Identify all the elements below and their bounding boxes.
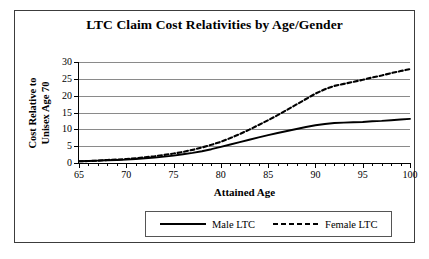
x-axis-tick-minor bbox=[136, 163, 137, 166]
chart-legend: Male LTC Female LTC bbox=[145, 211, 392, 237]
series-line-female-ltc bbox=[79, 69, 410, 161]
x-axis-tick-minor bbox=[164, 163, 165, 166]
x-axis-tick-minor bbox=[401, 163, 402, 166]
x-axis-tick-label: 70 bbox=[111, 169, 141, 180]
x-axis-tick-minor bbox=[297, 163, 298, 166]
x-axis-tick-minor bbox=[107, 163, 108, 166]
x-axis-tick-label: 80 bbox=[206, 169, 236, 180]
y-axis-tick-label: 5 bbox=[50, 140, 72, 151]
x-axis-tick-minor bbox=[145, 163, 146, 166]
y-axis-tick-label: 30 bbox=[50, 56, 72, 67]
y-axis-tick-label: 10 bbox=[50, 123, 72, 134]
x-axis-tick-minor bbox=[382, 163, 383, 166]
x-axis-tick-major bbox=[410, 163, 411, 168]
chart-figure: LTC Claim Cost Relativities by Age/Gende… bbox=[0, 0, 429, 259]
legend-item-female-ltc: Female LTC bbox=[273, 219, 377, 230]
y-axis-tick-label: 25 bbox=[50, 73, 72, 84]
x-axis-tick-major bbox=[268, 163, 269, 168]
legend-swatch-dashed-line bbox=[273, 220, 319, 228]
x-axis-tick-minor bbox=[372, 163, 373, 166]
x-axis-tick-minor bbox=[391, 163, 392, 166]
x-axis-tick-major bbox=[315, 163, 316, 168]
x-axis-tick-label: 95 bbox=[348, 169, 378, 180]
x-axis-tick-major bbox=[363, 163, 364, 168]
x-axis-tick-major bbox=[126, 163, 127, 168]
series-line-male-ltc bbox=[79, 119, 410, 161]
y-axis-tick-label: 15 bbox=[50, 107, 72, 118]
y-axis-tick-label: 20 bbox=[50, 90, 72, 101]
x-axis-tick-minor bbox=[334, 163, 335, 166]
x-axis-tick-minor bbox=[306, 163, 307, 166]
y-axis-title-line1: Cost Relative to bbox=[27, 77, 38, 148]
x-axis-tick-minor bbox=[249, 163, 250, 166]
x-axis-tick-label: 90 bbox=[300, 169, 330, 180]
data-series-layer bbox=[79, 62, 410, 163]
x-axis-tick-minor bbox=[88, 163, 89, 166]
legend-label-male-ltc: Male LTC bbox=[212, 219, 255, 230]
x-axis-tick-major bbox=[221, 163, 222, 168]
legend-swatch-solid-line bbox=[160, 220, 206, 228]
x-axis-tick-minor bbox=[325, 163, 326, 166]
chart-title: LTC Claim Cost Relativities by Age/Gende… bbox=[0, 17, 429, 33]
x-axis-tick-minor bbox=[353, 163, 354, 166]
x-axis-tick-minor bbox=[98, 163, 99, 166]
x-axis-line bbox=[78, 163, 411, 164]
x-axis-tick-label: 100 bbox=[395, 169, 425, 180]
x-axis-tick-minor bbox=[192, 163, 193, 166]
x-axis-tick-minor bbox=[117, 163, 118, 166]
x-axis-tick-major bbox=[79, 163, 80, 168]
legend-label-female-ltc: Female LTC bbox=[325, 219, 377, 230]
plot-area bbox=[79, 62, 410, 163]
x-axis-tick-minor bbox=[259, 163, 260, 166]
x-axis-tick-label: 85 bbox=[253, 169, 283, 180]
x-axis-title: Attained Age bbox=[79, 186, 410, 198]
x-axis-tick-minor bbox=[183, 163, 184, 166]
legend-item-male-ltc: Male LTC bbox=[160, 219, 255, 230]
x-axis-tick-label: 75 bbox=[159, 169, 189, 180]
x-axis-tick-minor bbox=[240, 163, 241, 166]
x-axis-tick-minor bbox=[230, 163, 231, 166]
x-axis-tick-major bbox=[174, 163, 175, 168]
x-axis-tick-minor bbox=[278, 163, 279, 166]
x-axis-tick-minor bbox=[211, 163, 212, 166]
x-axis-tick-minor bbox=[344, 163, 345, 166]
y-axis-tick-label: 0 bbox=[50, 157, 72, 168]
x-axis-tick-minor bbox=[155, 163, 156, 166]
x-axis-tick-minor bbox=[202, 163, 203, 166]
y-axis-title-line2: Unisex Age 70 bbox=[39, 82, 50, 145]
x-axis-tick-label: 65 bbox=[64, 169, 94, 180]
x-axis-tick-minor bbox=[287, 163, 288, 166]
